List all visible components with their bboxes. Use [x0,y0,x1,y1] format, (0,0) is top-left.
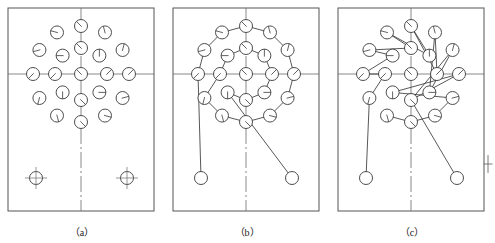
panel-a [8,8,154,211]
datum-hole-0 [360,172,373,185]
panel-caption-b: （b） [217,224,277,239]
panels-group [8,8,493,211]
technical-drawing-canvas [0,0,495,243]
panel-caption-c: （c） [382,224,442,239]
datum-hole-1 [286,172,299,185]
panel-caption-a: （a） [52,224,112,239]
panel-c [338,8,484,211]
registration-crosshair [484,155,493,173]
panel-b [173,8,319,211]
engineering-figure: （a） （b） （c） [0,0,495,243]
datum-hole-1 [451,172,464,185]
datum-hole-0 [195,172,208,185]
